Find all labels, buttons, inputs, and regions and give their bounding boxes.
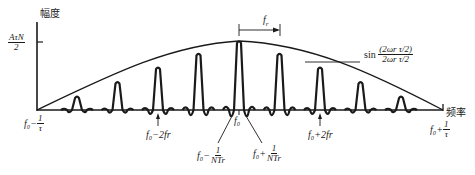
spectral-line [264, 54, 296, 115]
right-edge-label: f₀+1τ [430, 120, 450, 139]
plus-2fr-label: f₀+2fr [308, 130, 333, 140]
envelope-formula: sin (2ωr τ/2)2ωr τ/2 [364, 45, 413, 64]
left-edge-label: f₀−1τ [24, 114, 44, 133]
center-f0-label: f₀ [234, 116, 240, 126]
spectral-line [223, 42, 255, 117]
spectrum-diagram [0, 0, 475, 175]
spectral-line [304, 68, 336, 114]
y-axis-label: 幅度 [40, 9, 60, 19]
spectral-line [102, 82, 134, 112]
null-minus-label: f₀−1NTr [197, 146, 226, 165]
null-plus-label: f₀+1NTr [253, 144, 282, 163]
spectral-line [183, 54, 215, 115]
x-axis-label: 频率 [446, 108, 466, 118]
fr-spacing-label: fr [263, 15, 269, 28]
y-tick-label: AτN2 [8, 33, 25, 52]
minus-2fr-label: f₀−2fr [146, 130, 171, 140]
spectral-line [142, 68, 174, 114]
spectral-line [345, 82, 377, 112]
